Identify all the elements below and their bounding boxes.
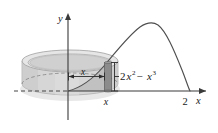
shell-strip-top-cap xyxy=(105,61,112,63)
y-axis-arrowhead xyxy=(65,13,71,20)
y-axis-label: y xyxy=(57,13,63,24)
shell-position-label: x xyxy=(103,96,109,107)
cylinder-top-surface xyxy=(30,55,110,71)
shell-strip-bottom-cap xyxy=(105,90,112,92)
height-label-var2: x xyxy=(146,70,152,82)
shell-strip xyxy=(105,63,112,92)
shell-method-figure: x 2 x 2 − x 3 y x 2 x xyxy=(0,0,218,133)
radius-label: x xyxy=(80,67,86,77)
height-label-minus: − xyxy=(137,70,143,82)
height-label-prefix: 2 xyxy=(120,70,126,82)
x-axis-arrowhead xyxy=(199,88,206,94)
height-label-exponent1: 2 xyxy=(132,69,136,77)
figure-container: x 2 x 2 − x 3 y x 2 x xyxy=(0,0,218,133)
height-label-var1: x xyxy=(126,70,132,82)
height-label-exponent2: 3 xyxy=(153,69,157,77)
x-axis-label: x xyxy=(195,95,201,106)
x-tick-label-2: 2 xyxy=(182,96,187,107)
